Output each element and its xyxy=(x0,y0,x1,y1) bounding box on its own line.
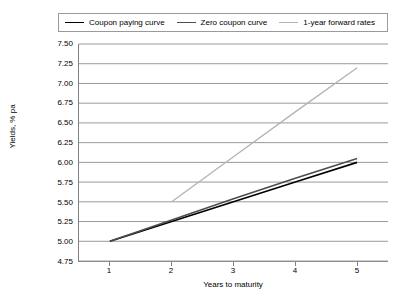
x-axis-tick-label: 5 xyxy=(355,266,359,275)
y-axis-tick-label: 6.00 xyxy=(57,159,73,167)
legend-label: Coupon paying curve xyxy=(89,18,165,27)
y-axis-tick-label: 5.75 xyxy=(57,179,73,187)
series-line xyxy=(172,68,357,202)
legend-line-icon xyxy=(177,22,196,23)
yield-curve-chart: Coupon paying curve Zero coupon curve 1-… xyxy=(0,0,405,302)
y-axis-tick-label: 6.25 xyxy=(57,139,73,147)
legend-line-icon xyxy=(65,22,84,23)
y-axis-tick-label: 7.00 xyxy=(57,80,73,88)
plot-area xyxy=(78,44,388,262)
y-axis-title: Yields, % pa xyxy=(8,79,17,175)
y-axis-tick-label: 5.25 xyxy=(57,218,73,226)
y-axis-tick-label: 7.50 xyxy=(57,40,73,48)
y-axis-tick-label: 6.50 xyxy=(57,119,73,127)
legend-entry-coupon-paying-curve: Coupon paying curve xyxy=(65,18,165,27)
y-axis-tick-label: 4.75 xyxy=(57,258,73,266)
y-axis-tick-label: 5.50 xyxy=(57,199,73,207)
legend-line-icon xyxy=(279,22,298,23)
x-axis-tick-label: 2 xyxy=(169,266,173,275)
x-axis-tick-label: 3 xyxy=(231,266,235,275)
legend-label: 1-year forward rates xyxy=(303,18,375,27)
y-axis-tick-label: 7.25 xyxy=(57,60,73,68)
series-line xyxy=(110,158,357,241)
x-axis-tick-label: 1 xyxy=(107,266,111,275)
series-lines xyxy=(79,44,388,261)
chart-legend: Coupon paying curve Zero coupon curve 1-… xyxy=(58,13,388,32)
legend-entry-1-year-forward-rates: 1-year forward rates xyxy=(279,18,375,27)
y-axis-tick-label: 5.00 xyxy=(57,238,73,246)
y-axis-tick-label: 6.75 xyxy=(57,99,73,107)
x-axis-tick-label: 4 xyxy=(293,266,297,275)
y-axis-tick-labels: 7.507.257.006.756.506.256.005.755.505.25… xyxy=(30,44,73,262)
series-line xyxy=(110,162,357,241)
legend-entry-zero-coupon-curve: Zero coupon curve xyxy=(177,18,268,27)
x-axis-title: Years to maturity xyxy=(78,280,388,289)
x-axis-tick-labels: 12345 xyxy=(78,266,388,278)
legend-label: Zero coupon curve xyxy=(201,18,268,27)
